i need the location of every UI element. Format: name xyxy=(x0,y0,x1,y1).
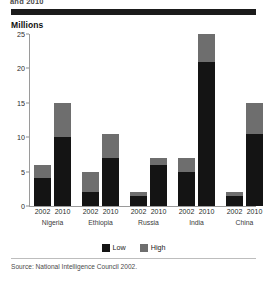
bar-segment-high xyxy=(246,103,263,134)
y-axis-tick-3 xyxy=(26,102,29,103)
y-axis-tick-1 xyxy=(26,171,29,172)
x-axis-year-label-7: 2010 xyxy=(194,208,220,215)
bar-ethiopia-2010 xyxy=(102,134,119,206)
bar-russia-2010 xyxy=(150,158,167,206)
bar-segment-high xyxy=(82,172,99,193)
chart-legend: LowHigh xyxy=(0,243,267,252)
bar-segment-low xyxy=(178,172,195,206)
bar-segment-low xyxy=(198,62,215,206)
chart-plot-area: 0510152025 20022010200220102002201020022… xyxy=(11,34,256,224)
bar-nigeria-2010 xyxy=(54,103,71,206)
x-axis-country-label-china: China xyxy=(222,219,268,226)
x-axis-year-label-9: 2010 xyxy=(242,208,268,215)
header-rule xyxy=(11,9,256,15)
x-axis-country-label-nigeria: Nigeria xyxy=(30,219,76,226)
legend-item-high: High xyxy=(140,243,166,252)
bar-segment-high xyxy=(198,34,215,62)
x-axis-country-label-ethiopia: Ethiopia xyxy=(78,219,124,226)
bar-segment-high xyxy=(102,134,119,158)
y-axis-tick-5 xyxy=(26,34,29,35)
source-note: Source: National Intelligence Council 20… xyxy=(11,263,137,270)
bar-segment-low xyxy=(54,137,71,206)
bar-china-2010 xyxy=(246,103,263,206)
x-axis-country-label-india: India xyxy=(174,219,220,226)
y-axis-tick-label-0: 0 xyxy=(21,202,25,211)
bar-segment-low xyxy=(226,196,243,206)
bar-segment-low xyxy=(246,134,263,206)
x-axis-country-labels: NigeriaEthiopiaRussiaIndiaChina xyxy=(30,219,256,231)
bar-segment-low xyxy=(82,192,99,206)
x-axis-year-label-3: 2010 xyxy=(98,208,124,215)
bar-segment-high xyxy=(54,103,71,137)
clipped-heading: and 2010 xyxy=(10,0,44,6)
y-axis-unit-label: Millions xyxy=(11,20,43,30)
y-axis-tick-label-2: 10 xyxy=(17,133,25,142)
y-axis-tick-0 xyxy=(26,206,29,207)
x-axis-country-label-russia: Russia xyxy=(126,219,172,226)
bar-series-container xyxy=(30,34,256,206)
x-axis-line xyxy=(29,206,256,207)
y-axis-tick-label-4: 20 xyxy=(17,64,25,73)
bar-segment-low xyxy=(150,165,167,206)
legend-label: High xyxy=(151,243,166,252)
bar-india-2002 xyxy=(178,158,195,206)
y-axis-tick-label-1: 5 xyxy=(21,167,25,176)
bar-segment-high xyxy=(178,158,195,172)
x-axis-year-label-5: 2010 xyxy=(146,208,172,215)
bar-india-2010 xyxy=(198,34,215,206)
bar-china-2002 xyxy=(226,192,243,206)
y-axis-tick-label-5: 25 xyxy=(17,30,25,39)
y-axis-tick-2 xyxy=(26,137,29,138)
bar-segment-high xyxy=(34,165,51,179)
bar-segment-low xyxy=(130,196,147,206)
bar-russia-2002 xyxy=(130,192,147,206)
bar-segment-high xyxy=(150,158,167,165)
bar-ethiopia-2002 xyxy=(82,172,99,206)
bar-segment-low xyxy=(102,158,119,206)
bar-nigeria-2002 xyxy=(34,165,51,206)
legend-swatch-high xyxy=(140,244,148,252)
legend-label: Low xyxy=(113,243,126,252)
bar-segment-low xyxy=(34,178,51,206)
legend-swatch-low xyxy=(102,244,110,252)
y-axis-tick-label-3: 15 xyxy=(17,98,25,107)
y-axis-tick-4 xyxy=(26,68,29,69)
legend-item-low: Low xyxy=(102,243,126,252)
x-axis-year-label-1: 2010 xyxy=(50,208,76,215)
y-axis-labels: 0510152025 xyxy=(11,34,27,206)
footer-divider xyxy=(11,258,256,259)
